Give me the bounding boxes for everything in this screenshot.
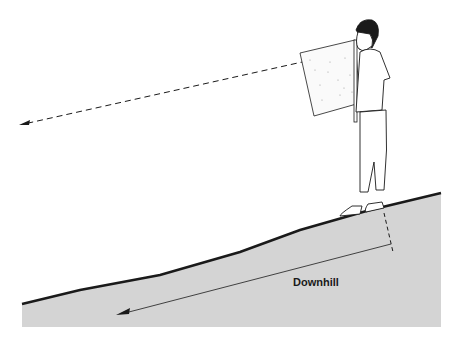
ground-slope — [22, 193, 441, 327]
face — [357, 32, 373, 51]
downhill-diagram: Downhill — [0, 0, 461, 342]
shirt — [356, 49, 390, 112]
sight-arrow-head — [19, 120, 30, 125]
trousers — [360, 110, 387, 192]
illustration — [0, 0, 461, 342]
sighting-board — [300, 40, 360, 116]
downhill-label: Downhill — [293, 276, 339, 288]
